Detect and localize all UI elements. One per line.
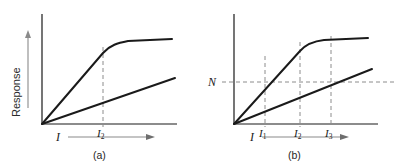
tick-label-i2: I2: [97, 128, 104, 139]
threshold-label-n: N: [208, 76, 216, 88]
figure-root: Response I2 I (a): [0, 0, 405, 167]
tick-label-i3: I3: [325, 128, 332, 139]
x-axis-direction-arrow-head: [340, 134, 349, 140]
y-axis-label: Response: [11, 67, 22, 117]
curve-linear-response: [234, 69, 372, 124]
curve-saturating-response: [42, 39, 172, 124]
tick-label-i2: I2: [294, 128, 301, 139]
x-axis-direction-arrow-head: [146, 134, 155, 140]
tick-label-i2-sub: 2: [101, 132, 105, 141]
curve-saturating-response: [234, 38, 368, 124]
tick-label-i1: I1: [259, 128, 266, 139]
panel-a-caption: (a): [93, 150, 106, 161]
panel-b: N I1 I2 I3 I (b): [200, 0, 405, 167]
panel-a: Response I2 I (a): [0, 0, 202, 167]
x-axis-label: I: [56, 131, 60, 143]
panel-a-plot: [0, 0, 202, 167]
panel-b-caption: (b): [288, 150, 301, 161]
panel-b-plot: [200, 0, 405, 167]
y-axis-direction-arrow-head: [25, 30, 31, 38]
tick-label-i3-sub: 3: [329, 132, 333, 141]
tick-label-i1-sub: 1: [263, 132, 267, 141]
tick-label-i2-sub: 2: [298, 132, 302, 141]
x-axis-label: I: [250, 131, 254, 143]
